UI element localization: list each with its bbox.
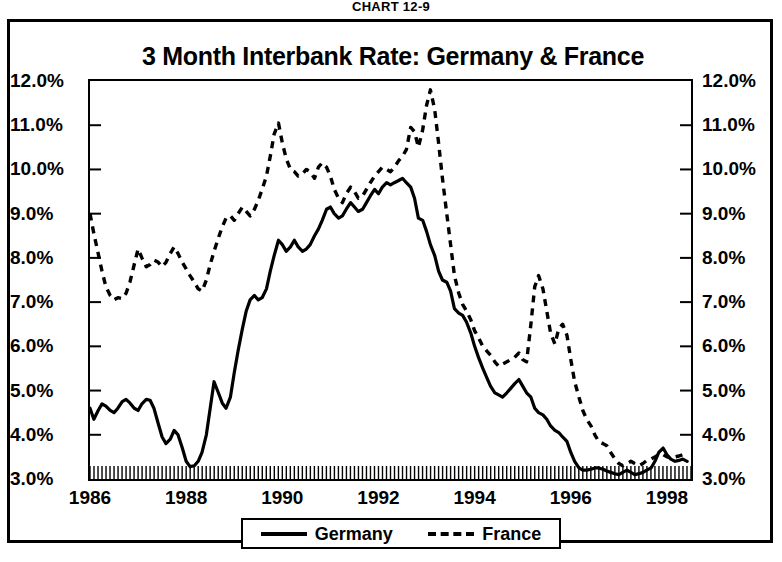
x-axis-label: 1992 xyxy=(357,488,399,507)
y-axis-right-label: 8.0% xyxy=(702,248,745,267)
y-axis-right-label: 11.0% xyxy=(702,115,755,134)
chart-number-caption: CHART 12-9 xyxy=(0,0,782,14)
chart-outer-frame: 3 Month Interbank Rate: Germany & France… xyxy=(7,19,773,543)
chart-title: 3 Month Interbank Rate: Germany & France xyxy=(10,42,776,71)
plot-area xyxy=(88,79,693,481)
legend-entry-germany: Germany xyxy=(261,525,393,543)
y-axis-right-label: 3.0% xyxy=(702,469,745,488)
dashed-line-swatch-icon xyxy=(428,532,474,536)
x-axis-label: 1998 xyxy=(646,488,688,507)
legend-label-france: France xyxy=(482,525,541,543)
y-axis-right-label: 6.0% xyxy=(702,336,745,355)
x-axis-label: 1988 xyxy=(165,488,207,507)
plot-svg xyxy=(88,79,693,481)
y-axis-right-label: 7.0% xyxy=(702,292,745,311)
legend-entry-france: France xyxy=(428,525,541,543)
solid-line-swatch-icon xyxy=(261,532,307,536)
chart-figure: CHART 12-9 3 Month Interbank Rate: Germa… xyxy=(0,0,782,562)
y-axis-right-label: 10.0% xyxy=(702,159,756,178)
x-axis-label: 1996 xyxy=(550,488,592,507)
y-axis-right-label: 9.0% xyxy=(702,204,745,223)
y-axis-right-label: 12.0% xyxy=(702,71,756,90)
legend-label-germany: Germany xyxy=(315,525,393,543)
x-axis-label: 1986 xyxy=(69,488,111,507)
y-axis-right-label: 5.0% xyxy=(702,381,745,400)
x-axis-label: 1994 xyxy=(453,488,495,507)
chart-legend: Germany France xyxy=(241,518,561,549)
y-axis-right-label: 4.0% xyxy=(702,425,745,444)
x-axis-label: 1990 xyxy=(261,488,303,507)
plot-frame xyxy=(89,80,692,480)
